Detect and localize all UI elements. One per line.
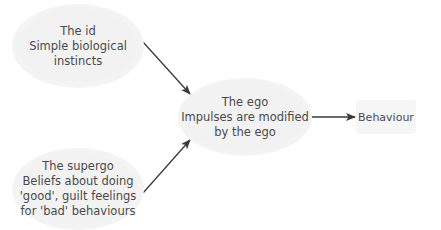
id-node-line-1: Simple biological: [29, 39, 127, 54]
superego-node-line-3: for 'bad' behaviours: [21, 204, 136, 219]
ego-node-title: The ego: [222, 95, 268, 110]
id-node-line-2: instincts: [54, 54, 102, 69]
ego-node: The ego Impulses are modified by the ego: [178, 78, 312, 156]
id-node-title: The id: [60, 24, 96, 39]
arrow-superego-to-ego: [143, 140, 190, 193]
superego-node: The supergo Beliefs about doing 'good', …: [12, 148, 144, 230]
behaviour-node-title: Behaviour: [358, 110, 414, 125]
arrow-id-to-ego: [143, 42, 190, 94]
ego-node-line-1: Impulses are modified: [181, 110, 309, 125]
ego-node-line-2: by the ego: [214, 125, 276, 140]
superego-node-line-2: 'good', guilt feelings: [20, 189, 137, 204]
id-node: The id Simple biological instincts: [12, 4, 144, 88]
behaviour-node: Behaviour: [356, 100, 416, 134]
superego-node-title: The supergo: [42, 159, 114, 174]
superego-node-line-1: Beliefs about doing: [22, 174, 133, 189]
